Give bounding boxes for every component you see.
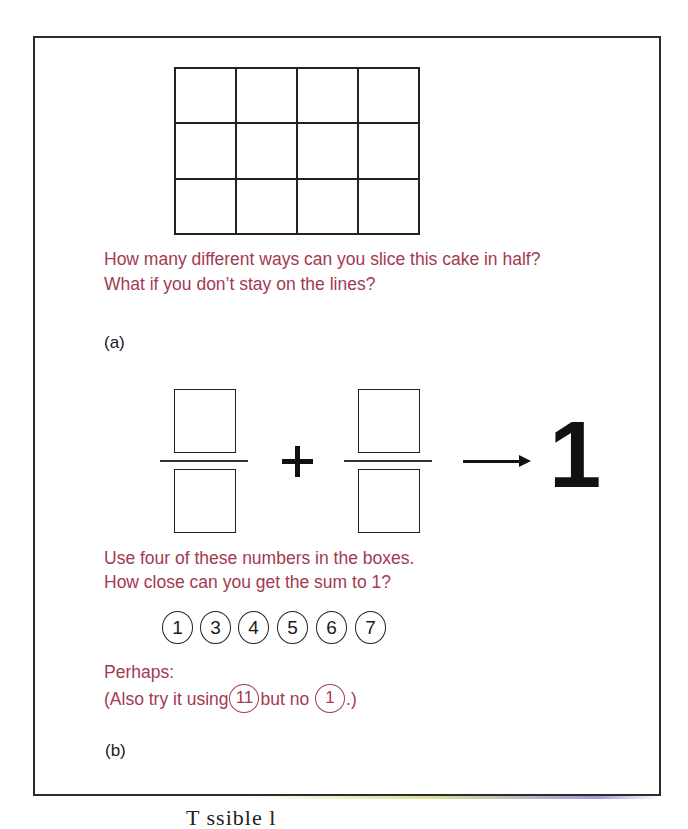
right-arrow-icon xyxy=(463,460,521,463)
fraction-2-numerator-box[interactable] xyxy=(358,389,420,453)
grid-cell xyxy=(358,123,419,178)
cake-question-line-2: What if you don’t stay on the lines? xyxy=(104,272,375,297)
grid-cell xyxy=(236,123,297,178)
grid-cell xyxy=(358,68,419,123)
fraction-1-denominator-box[interactable] xyxy=(174,469,236,533)
right-arrow-head-icon xyxy=(519,455,531,467)
grid-cell xyxy=(236,179,297,234)
target-value: 1 xyxy=(549,408,601,502)
number-chip-1[interactable]: 1 xyxy=(162,611,193,644)
circled-number-11: 11 xyxy=(229,684,259,713)
perhaps-middle: but no xyxy=(260,689,309,709)
perhaps-prefix: (Also try it using xyxy=(104,689,228,709)
number-chip-4[interactable]: 4 xyxy=(238,611,269,644)
grid-cell xyxy=(297,179,358,234)
circled-number-1: 1 xyxy=(315,684,345,713)
grid-cell xyxy=(358,179,419,234)
fraction-2-denominator-box[interactable] xyxy=(358,469,420,533)
grid-cell xyxy=(297,68,358,123)
grid-cell xyxy=(236,68,297,123)
grid-cell xyxy=(175,68,236,123)
part-a-label: (a) xyxy=(104,333,125,353)
grid-cell xyxy=(175,179,236,234)
number-chip-6[interactable]: 6 xyxy=(316,611,347,644)
grid-cell xyxy=(297,123,358,178)
grid-cell xyxy=(175,123,236,178)
number-chip-5[interactable]: 5 xyxy=(277,611,308,644)
scan-artifact xyxy=(240,796,660,799)
plus-icon-vertical xyxy=(295,446,300,477)
fraction-2-bar xyxy=(344,460,432,462)
fraction-1-bar xyxy=(160,460,248,462)
cake-grid xyxy=(174,67,420,235)
perhaps-suffix: .) xyxy=(346,689,357,709)
instruction-line-2: How close can you get the sum to 1? xyxy=(104,570,391,595)
number-chip-7[interactable]: 7 xyxy=(355,611,386,644)
instruction-line-1: Use four of these numbers in the boxes. xyxy=(104,546,414,571)
caption-fragment: T ssible l xyxy=(186,805,276,829)
fraction-1-numerator-box[interactable] xyxy=(174,389,236,453)
cake-question-line-1: How many different ways can you slice th… xyxy=(104,247,540,272)
number-chip-3[interactable]: 3 xyxy=(200,611,231,644)
perhaps-heading: Perhaps: xyxy=(104,660,174,685)
part-b-label: (b) xyxy=(105,741,126,761)
perhaps-line: (Also try it using11but no 1.) xyxy=(104,684,357,715)
